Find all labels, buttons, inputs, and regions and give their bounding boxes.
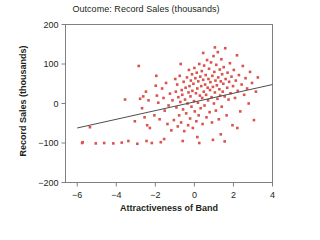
data-point	[211, 75, 214, 78]
data-point	[193, 67, 196, 70]
data-point	[212, 86, 215, 89]
data-point	[182, 108, 185, 111]
data-point	[221, 90, 224, 93]
data-point	[217, 51, 220, 54]
data-point	[201, 123, 204, 126]
data-point	[220, 105, 223, 108]
data-point	[214, 91, 217, 94]
data-point	[212, 55, 215, 58]
data-point	[247, 102, 250, 105]
data-point	[201, 97, 204, 100]
data-point	[209, 81, 212, 84]
data-point	[222, 82, 225, 85]
data-point	[196, 136, 199, 139]
data-point	[141, 107, 144, 110]
data-point	[202, 52, 205, 55]
y-tick-label: −100	[38, 138, 58, 148]
data-point	[124, 98, 127, 101]
data-point	[191, 90, 194, 93]
data-point	[214, 46, 217, 49]
data-point	[139, 97, 142, 100]
data-point	[183, 130, 186, 133]
data-point	[210, 61, 213, 64]
data-point	[234, 79, 237, 82]
data-point	[205, 116, 208, 119]
data-point	[189, 117, 192, 120]
data-point	[239, 110, 242, 113]
data-point	[176, 125, 179, 128]
data-point	[180, 89, 183, 92]
data-point	[236, 127, 239, 130]
data-point	[149, 127, 152, 130]
data-point	[182, 80, 185, 83]
data-point	[142, 95, 145, 98]
data-point	[137, 65, 140, 68]
x-tick-label: 0	[192, 190, 197, 200]
data-point	[249, 71, 252, 74]
data-point	[228, 80, 231, 83]
data-point	[112, 142, 115, 145]
data-point	[213, 71, 216, 74]
data-point	[205, 94, 208, 97]
x-tick-label: −6	[72, 190, 82, 200]
data-point	[145, 140, 148, 143]
data-point	[251, 82, 254, 85]
data-point	[246, 87, 249, 90]
data-point	[158, 118, 161, 121]
data-point	[195, 92, 198, 95]
data-point	[89, 126, 92, 129]
data-point	[202, 79, 205, 82]
data-point	[185, 112, 188, 115]
data-point	[236, 54, 239, 57]
data-point	[216, 84, 219, 87]
data-point	[163, 109, 166, 112]
data-point	[175, 90, 178, 93]
data-point	[192, 82, 195, 85]
data-point	[145, 90, 148, 93]
data-point	[157, 101, 160, 104]
data-point	[181, 140, 184, 143]
data-point	[215, 109, 218, 112]
data-point	[208, 111, 211, 114]
data-point	[224, 78, 227, 81]
data-point	[216, 97, 219, 100]
data-point	[176, 83, 179, 86]
data-point	[169, 92, 172, 95]
data-point	[225, 114, 228, 117]
data-point	[156, 94, 159, 97]
data-point	[186, 76, 189, 79]
data-point	[207, 78, 210, 81]
data-point	[151, 142, 154, 145]
data-point	[226, 71, 229, 74]
data-point	[136, 142, 139, 145]
data-point	[222, 66, 225, 69]
data-point	[127, 140, 130, 143]
data-point	[226, 86, 229, 89]
data-point	[178, 75, 181, 78]
data-point	[208, 67, 211, 70]
data-point	[214, 79, 217, 82]
data-point	[147, 99, 150, 102]
data-point	[181, 94, 184, 97]
y-tick-label: −200	[38, 178, 58, 188]
data-point	[179, 101, 182, 104]
data-point	[244, 77, 247, 80]
x-tick-label: −2	[150, 190, 160, 200]
data-point	[162, 97, 165, 100]
data-point	[163, 138, 166, 141]
data-point	[165, 82, 168, 85]
data-point	[218, 68, 221, 71]
plot-frame	[66, 25, 273, 183]
data-point	[230, 75, 233, 78]
data-point	[94, 142, 97, 145]
data-point	[173, 119, 176, 122]
data-point	[195, 120, 198, 123]
data-point	[255, 90, 258, 93]
data-point	[179, 63, 182, 66]
data-point	[188, 69, 191, 72]
data-point	[220, 58, 223, 61]
data-point	[198, 142, 201, 145]
data-point	[166, 123, 169, 126]
data-point	[209, 89, 212, 92]
data-point	[219, 133, 222, 136]
